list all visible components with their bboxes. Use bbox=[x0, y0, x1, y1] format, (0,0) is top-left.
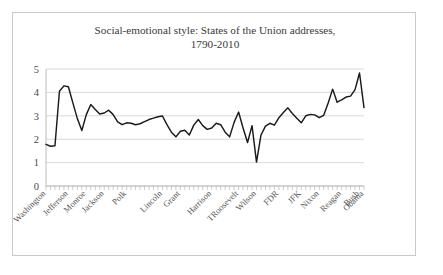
y-axis-tick-label: 3 bbox=[34, 111, 39, 122]
x-axis-category-labels: WashingtonJeffersonMonroeJacksonPolkLinc… bbox=[13, 188, 366, 225]
plot-area: 012345 WashingtonJeffersonMonroeJacksonP… bbox=[13, 13, 417, 257]
data-series-line bbox=[46, 73, 364, 162]
x-axis-category-label: Washington bbox=[13, 188, 48, 224]
y-axis-tick-label: 4 bbox=[34, 87, 40, 98]
x-axis-category-label: Lincoln bbox=[138, 188, 164, 214]
x-axis-category-label: Polk bbox=[110, 188, 129, 207]
x-axis-category-label: FDR bbox=[261, 188, 280, 207]
x-axis-category-label: Grant bbox=[161, 188, 182, 209]
y-axis-tick-label: 1 bbox=[34, 157, 39, 168]
y-axis-tick-label: 5 bbox=[34, 64, 39, 75]
x-axis-category-label: Reagan bbox=[318, 188, 344, 214]
y-axis-tick-label: 2 bbox=[34, 134, 39, 145]
line-chart-svg: 012345 WashingtonJeffersonMonroeJacksonP… bbox=[13, 13, 417, 257]
chart-card: Social-emotional style: States of the Un… bbox=[12, 12, 416, 256]
y-axis-tick-labels: 012345 bbox=[34, 64, 40, 192]
x-axis-category-label: Wilson bbox=[234, 188, 259, 213]
